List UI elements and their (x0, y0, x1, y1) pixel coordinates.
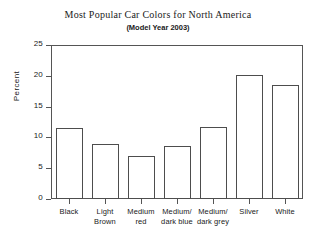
y-tick-mark (46, 76, 51, 77)
bar (200, 127, 227, 199)
title-block: Most Popular Car Colors for North Americ… (0, 9, 316, 33)
x-axis-tick (141, 199, 142, 204)
y-tick-mark (46, 137, 51, 138)
x-axis-tick (69, 199, 70, 204)
x-axis-tick (105, 199, 106, 204)
x-tick-label-line1: Light (97, 207, 114, 216)
y-tick-mark (46, 45, 51, 46)
x-tick-label-line1: White (275, 207, 295, 216)
y-tick-label: 25 (34, 39, 43, 48)
y-tick-mark (46, 107, 51, 108)
y-axis-tick: 20 (0, 76, 51, 77)
chart-screenshot: Most Popular Car Colors for North Americ… (0, 0, 316, 241)
x-axis-tick (177, 199, 178, 204)
y-tick-label: 20 (34, 70, 43, 79)
bar (164, 146, 191, 199)
y-tick-label: 15 (34, 101, 43, 110)
y-tick-label: 0 (38, 193, 43, 202)
y-tick-label: 5 (38, 162, 43, 171)
x-tick-label: White (259, 207, 311, 217)
x-tick-label-line2: dark grey (187, 217, 239, 227)
bar (236, 75, 263, 199)
y-axis-tick: 15 (0, 107, 51, 108)
bar (56, 128, 83, 199)
bar (128, 156, 155, 199)
bar (272, 85, 299, 199)
y-tick-label: 10 (34, 131, 43, 140)
y-tick-mark (46, 199, 51, 200)
x-tick-label-line1: Black (60, 207, 79, 216)
y-axis-tick: 0 (0, 199, 51, 200)
chart-subtitle: (Model Year 2003) (0, 22, 316, 33)
y-axis-tick: 25 (0, 45, 51, 46)
y-axis-tick: 5 (0, 168, 51, 169)
x-axis-tick (249, 199, 250, 204)
page-title: Most Popular Car Colors for North Americ… (0, 9, 316, 21)
y-axis-tick: 10 (0, 137, 51, 138)
x-axis-tick (285, 199, 286, 204)
x-axis-tick (213, 199, 214, 204)
y-tick-mark (46, 168, 51, 169)
bar (92, 144, 119, 199)
x-tick-label-line1: Silver (239, 207, 258, 216)
